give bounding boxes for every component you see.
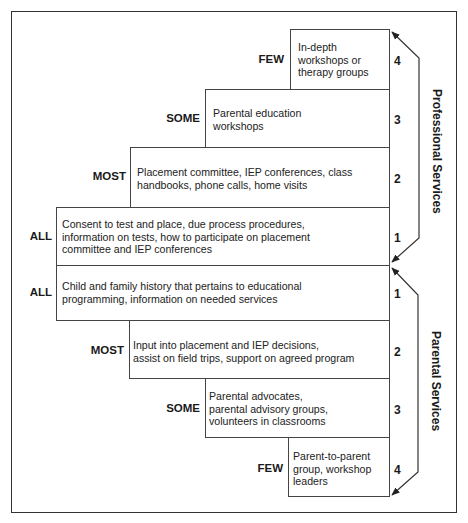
professional-tier-2-text: Placement committee, IEP conferences, cl… — [137, 166, 352, 191]
professional-services-label: Professional Services — [430, 89, 444, 199]
parental-tier-4-number: 4 — [394, 463, 401, 477]
parental-tier-1-text: Child and family history that pertains t… — [62, 280, 302, 305]
parental-tier-4-level: FEW — [240, 462, 283, 474]
professional-tier-1-level: ALL — [20, 230, 52, 242]
parental-tier-3-text: Parental advocates, parental advisory gr… — [209, 390, 328, 428]
parental-tier-2-text: Input into placement and IEP decisions, … — [133, 339, 354, 364]
professional-tier-3-level: SOME — [150, 112, 200, 124]
professional-tier-4-number: 4 — [394, 54, 401, 68]
parental-tier-4-text: Parent-to-parent group, workshop leaders — [293, 450, 371, 488]
professional-tier-1-text: Consent to test and place, due process p… — [62, 218, 310, 256]
professional-tier-2-number: 2 — [394, 172, 401, 186]
parental-tier-3-number: 3 — [394, 403, 401, 417]
parental-tier-1-number: 1 — [394, 287, 401, 301]
parental-services-label: Parental Services — [429, 331, 443, 431]
professional-tier-1-number: 1 — [394, 231, 401, 245]
professional-tier-3-number: 3 — [394, 113, 401, 127]
parental-tier-3-level: SOME — [148, 402, 200, 414]
parental-tier-2-number: 2 — [394, 345, 401, 359]
professional-tier-4-text: In-depth workshops or therapy groups — [298, 41, 369, 79]
professional-tier-2-level: MOST — [80, 170, 126, 182]
parental-tier-1-level: ALL — [20, 286, 52, 298]
professional-tier-4-level: FEW — [240, 53, 284, 65]
professional-tier-3-text: Parental education workshops — [213, 107, 301, 132]
parental-tier-2-level: MOST — [78, 344, 124, 356]
